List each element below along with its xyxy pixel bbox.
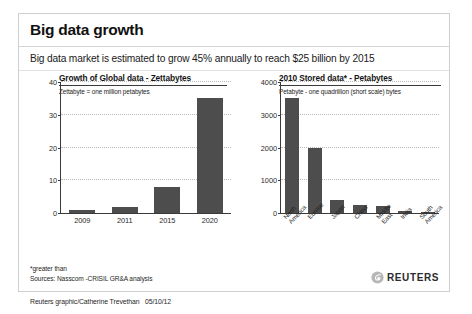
bar-slot [104, 82, 147, 213]
bar-slot [416, 82, 439, 213]
x-axis-tick-label: 2009 [61, 216, 104, 225]
x-axis-tick-label: 2020 [189, 216, 232, 225]
bar [154, 187, 180, 213]
y-axis-tick-label: 4000 [261, 78, 277, 87]
y-axis-tick-label: 0 [53, 209, 57, 218]
bar-slot [349, 82, 372, 213]
y-axis-tick-label: 1000 [261, 176, 277, 185]
x-axis-label-slot: Europe [304, 215, 327, 249]
chart-global-data-growth: Growth of Global data - Zettabytes Zetta… [23, 71, 237, 256]
bar-slot [326, 82, 349, 213]
chart-left-plot-area: 403020100 2009201120152020 [60, 82, 231, 214]
chart-right-plot-area: 40003000200010000 NorthAmericaEuropeJapa… [280, 82, 439, 214]
y-axis-tick-label: 20 [49, 143, 57, 152]
bar-slot [281, 82, 304, 213]
bar [285, 98, 299, 213]
y-axis-tick-label: 10 [49, 176, 57, 185]
y-axis-tick-label: 40 [49, 78, 57, 87]
reuters-swoosh-icon [371, 271, 384, 284]
reuters-logo: REUTERS [371, 271, 439, 284]
credit-line: Reuters graphic/Catherine Trevethan 05/1… [30, 298, 171, 305]
y-axis-tick-label: 3000 [261, 110, 277, 119]
y-axis-tick-label: 30 [49, 110, 57, 119]
bar-slot [146, 82, 189, 213]
bar-slot [371, 82, 394, 213]
y-axis-tick-label: 0 [273, 209, 277, 218]
charts-area: Growth of Global data - Zettabytes Zetta… [19, 71, 449, 256]
subhead-text: Big data market is estimated to grow 45%… [30, 53, 375, 64]
footnote-greater-than: *greater than [30, 264, 152, 274]
bar-slot [189, 82, 232, 213]
bar-slot [304, 82, 327, 213]
bar-slot [394, 82, 417, 213]
graphic-header: Big data growth [19, 14, 449, 47]
x-axis-label-slot: MiddleEast [371, 215, 394, 249]
x-axis-label-slot: China [349, 215, 372, 249]
x-axis-tick-label: 2015 [146, 216, 189, 225]
bar-slot [61, 82, 104, 213]
subhead-row: Big data market is estimated to grow 45%… [19, 47, 449, 71]
reuters-wordmark: REUTERS [387, 272, 439, 283]
page-title: Big data growth [30, 21, 143, 39]
chart-left-bars [61, 82, 231, 213]
chart-stored-data-2010: 2010 Stored data* - Petabytes Petabyte -… [237, 71, 449, 256]
x-axis-label-slot: NorthAmerica [281, 215, 304, 249]
x-axis-label-slot: Japan [326, 215, 349, 249]
x-axis-label-slot: India [394, 215, 417, 249]
footnote-sources: Sources: Nasscom -CRISIL GR&A analysis [30, 274, 152, 284]
footnotes: *greater than Sources: Nasscom -CRISIL G… [30, 264, 152, 283]
chart-right-bars [281, 82, 439, 213]
y-axis-tick-label: 2000 [261, 143, 277, 152]
chart-left-x-axis-labels: 2009201120152020 [61, 213, 231, 225]
x-axis-label-slot: SouthAmerica [416, 215, 439, 249]
chart-right-x-axis-labels: NorthAmericaEuropeJapanChinaMiddleEastIn… [281, 213, 439, 249]
bar [197, 98, 223, 213]
x-axis-tick-label: 2011 [104, 216, 147, 225]
reuters-graphic-frame: Big data growth Big data market is estim… [18, 13, 450, 292]
